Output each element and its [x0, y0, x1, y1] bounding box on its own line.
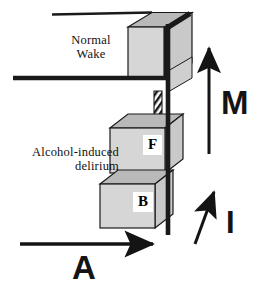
alcohol-delirium-label: Alcohol-induced delirium — [3, 146, 119, 173]
normal-wake-label: Normal Wake — [55, 34, 127, 61]
i-vector — [195, 192, 214, 244]
b-box-label: B — [133, 192, 153, 212]
diagram-graphics — [0, 0, 261, 288]
m-vector-label: M — [221, 86, 249, 119]
f-box-label: F — [143, 135, 162, 155]
a-vector-label: A — [72, 251, 96, 284]
i-vector-label: I — [226, 207, 235, 238]
diagram-canvas: Normal Wake Alcohol-induced delirium F B… — [0, 0, 261, 288]
upper-baseline — [52, 13, 152, 15]
